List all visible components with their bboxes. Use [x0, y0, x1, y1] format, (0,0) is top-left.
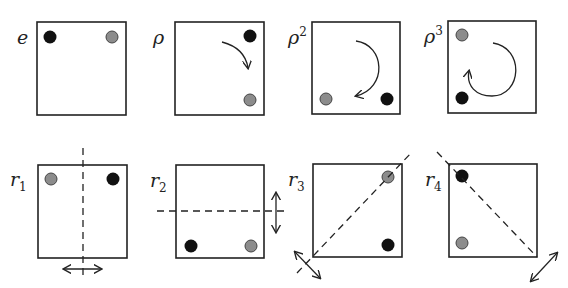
gray-dot: [245, 240, 257, 252]
panel-label: r4: [425, 168, 442, 194]
panel-rho-squared: ρ2: [287, 22, 400, 114]
panel-rho-cubed: ρ3: [423, 21, 536, 113]
gray-dot: [106, 31, 118, 43]
panel-r4: r4: [425, 152, 557, 281]
panel-label: ρ3: [423, 24, 443, 47]
gray-dot: [45, 173, 57, 185]
black-dot: [244, 30, 257, 43]
black-dot: [107, 173, 120, 186]
black-dot: [381, 93, 394, 106]
panel-label: r3: [288, 168, 305, 194]
panel-label: r2: [150, 169, 167, 195]
gray-dot: [456, 29, 468, 41]
gray-dot: [244, 94, 256, 106]
panel-label: r1: [10, 168, 27, 194]
black-dot: [382, 239, 395, 252]
black-dot: [44, 31, 57, 44]
panel-rho: ρ: [152, 22, 264, 115]
black-dot: [185, 240, 198, 253]
panel-r2: r2: [150, 165, 286, 258]
black-dot: [456, 170, 469, 183]
black-dot: [456, 92, 469, 105]
panel-label: e: [17, 26, 28, 48]
panel-label: ρ2: [287, 25, 307, 48]
panel-label: ρ: [152, 26, 165, 48]
gray-dot: [320, 93, 332, 105]
gray-dot: [456, 237, 468, 249]
panel-identity: e: [17, 22, 126, 115]
panel-r1: r1: [10, 148, 127, 280]
d4-symmetry-diagram: e ρ ρ2 ρ3 r1 r2: [0, 0, 568, 288]
panel-r3: r3: [288, 152, 412, 278]
